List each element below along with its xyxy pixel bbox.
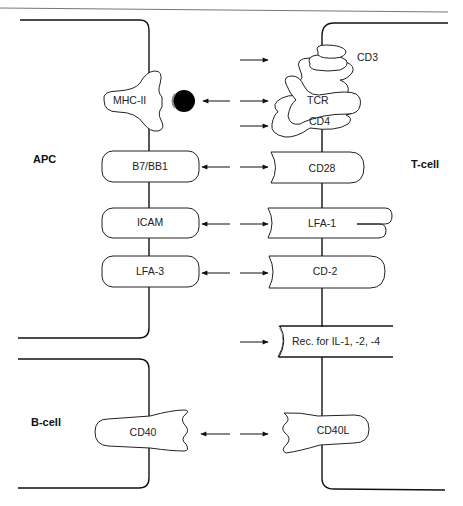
mhc-ii-molecule: MHC-II — [104, 71, 163, 131]
tcr-label: TCR — [307, 94, 329, 106]
cell-interaction-diagram: APC T-cell B-cell MHC-II CD3 TCR CD4 B7/… — [0, 0, 463, 506]
mhc-ii-label: MHC-II — [113, 94, 146, 106]
cd2-label: CD-2 — [313, 265, 338, 277]
cd3-label: CD3 — [357, 51, 378, 63]
t-cell-label: T-cell — [411, 158, 439, 170]
icam-label: ICAM — [137, 216, 163, 228]
peptide-antigen — [173, 90, 195, 112]
il-receptor-label: Rec. for IL-1, -2, -4 — [292, 335, 380, 347]
cd4-label: CD4 — [309, 115, 330, 127]
tcr-complex: CD3 TCR CD4 — [272, 45, 378, 137]
apc-label: APC — [33, 153, 56, 165]
header-rule — [0, 8, 448, 12]
b-cell-label: B-cell — [31, 416, 61, 428]
cd28-label: CD28 — [309, 162, 336, 174]
lfa1-label: LFA-1 — [308, 217, 336, 229]
lfa3-label: LFA-3 — [136, 265, 164, 277]
b7-bb1-label: B7/BB1 — [132, 160, 168, 172]
cd40l-label: CD40L — [317, 424, 350, 436]
cd40-label: CD40 — [130, 426, 157, 438]
